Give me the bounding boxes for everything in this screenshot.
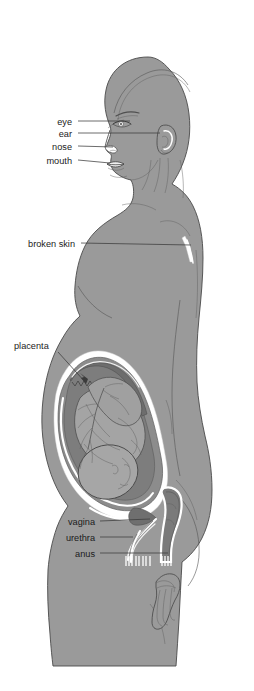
label-mouth: mouth [46, 156, 72, 166]
eye-pupil [120, 123, 122, 125]
label-broken-skin: broken skin [28, 239, 75, 249]
label-urethra: urethra [66, 533, 96, 543]
label-ear: ear [59, 129, 72, 139]
label-anus: anus [75, 549, 95, 559]
label-vagina: vagina [68, 517, 96, 527]
diagram-canvas: eye ear nose mouth broken skin placenta … [0, 0, 254, 691]
label-eye: eye [57, 117, 72, 127]
label-nose: nose [52, 142, 72, 152]
label-placenta: placenta [14, 341, 50, 351]
anatomy-diagram: eye ear nose mouth broken skin placenta … [0, 0, 254, 691]
